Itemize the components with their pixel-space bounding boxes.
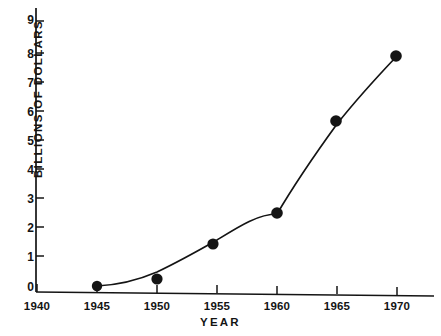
chart-figure: BILLIONS OF DOLLARS YEAR 9 8 7 6 5 4 3 2… [0,0,441,336]
y-tick-marks [36,21,44,256]
data-point-1960 [271,207,283,219]
data-series-curve [97,57,396,286]
data-point-1945 [92,281,102,291]
data-point-1965 [330,115,342,127]
data-point-1955 [207,238,218,249]
data-point-1970 [390,50,402,62]
data-point-markers [92,50,402,291]
chart-plot-area [0,0,441,336]
data-point-1950 [151,273,162,284]
x-axis-spine [36,292,434,296]
